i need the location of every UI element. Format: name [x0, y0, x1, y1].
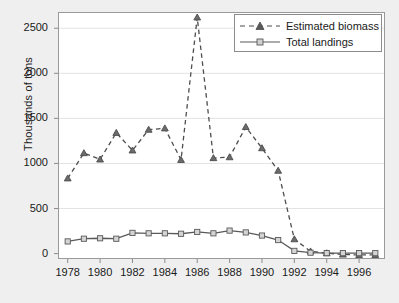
- legend-label-total-landings: Total landings: [286, 36, 353, 48]
- legend-label-estimated-biomass: Estimated biomass: [286, 20, 379, 32]
- chart-legend: Estimated biomass Total landings: [234, 14, 382, 52]
- legend-key-dashed-triangle: [239, 19, 281, 33]
- legend-item-total-landings: Total landings: [239, 34, 377, 50]
- legend-key-solid-square: [239, 35, 281, 49]
- legend-item-estimated-biomass: Estimated biomass: [239, 18, 377, 34]
- chart-figure: Thousands of tons 05001000150020002500 1…: [0, 0, 399, 303]
